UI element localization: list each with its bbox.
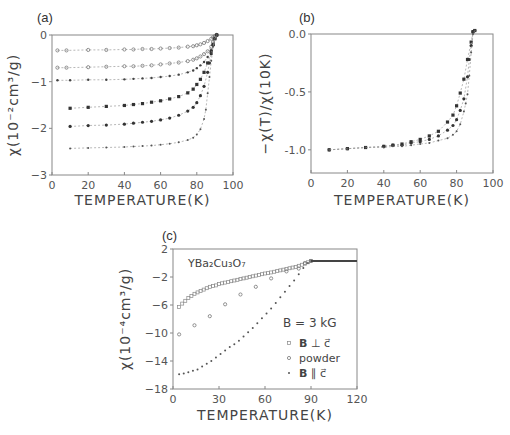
x-axis-title: TEMPERATURE(K) — [196, 407, 333, 423]
data-series — [69, 33, 219, 109]
data-point — [233, 343, 235, 345]
panel-c-chart: (c)03060901202−2−6−10−14−18TEMPERATURE(K… — [117, 228, 368, 423]
data-point — [87, 106, 90, 109]
x-tick-label: 90 — [304, 393, 318, 406]
data-point — [437, 130, 440, 133]
data-point — [467, 93, 469, 95]
data-point — [294, 265, 297, 268]
data-point — [302, 267, 304, 269]
data-point — [472, 33, 474, 35]
data-point — [177, 114, 180, 117]
series-line — [70, 35, 217, 148]
data-point — [186, 109, 189, 112]
y-tick-label: -1.0 — [285, 144, 306, 157]
legend-entry-label: B ⊥ c⃗ — [299, 337, 330, 350]
data-point — [192, 69, 194, 71]
data-point — [236, 278, 239, 281]
data-point — [159, 118, 162, 121]
data-point — [455, 104, 458, 107]
data-point — [242, 277, 245, 280]
data-point — [247, 331, 249, 333]
data-point — [446, 129, 449, 132]
series-line — [329, 31, 475, 150]
data-point — [289, 285, 291, 287]
data-point — [187, 371, 189, 373]
data-point — [267, 272, 270, 275]
series-line — [329, 31, 475, 150]
data-point — [184, 299, 187, 302]
x-tick-label: 80 — [450, 177, 464, 190]
x-tick-label: 20 — [340, 177, 354, 190]
data-point — [462, 97, 465, 100]
data-point — [203, 61, 205, 63]
data-point — [208, 285, 211, 288]
data-point — [123, 104, 126, 107]
data-point — [132, 78, 134, 80]
data-point — [446, 120, 449, 123]
y-tick-label: 2 — [161, 243, 168, 256]
x-tick-label: 60 — [258, 393, 272, 406]
data-point — [220, 353, 222, 355]
data-point — [210, 360, 212, 362]
data-point — [224, 303, 227, 306]
series-line — [57, 35, 216, 80]
data-point — [206, 363, 208, 365]
data-point — [151, 145, 153, 147]
y-axis-title: χ(10⁻⁴cm³/g) — [117, 268, 133, 370]
data-point — [178, 306, 181, 309]
data-point — [132, 103, 135, 106]
x-tick-label: 0 — [49, 179, 56, 192]
data-point — [187, 139, 189, 141]
data-point — [251, 275, 254, 278]
y-tick-label: −2 — [31, 122, 47, 135]
data-point — [459, 91, 462, 94]
data-point — [195, 101, 198, 104]
x-tick-label: 80 — [190, 179, 204, 192]
data-point — [239, 293, 242, 296]
data-point — [123, 146, 125, 148]
legend: B = 3 kGB ⊥ c⃗powderB ∥ c⃗ — [283, 316, 340, 380]
data-point — [459, 123, 461, 125]
data-point — [293, 280, 295, 282]
data-point — [401, 145, 403, 147]
data-point — [192, 137, 194, 139]
data-point — [383, 147, 385, 149]
data-point — [206, 39, 209, 42]
y-tick-label: 0 — [40, 29, 47, 42]
data-point — [150, 77, 152, 79]
data-point — [248, 276, 251, 279]
data-point — [462, 78, 465, 81]
data-point — [279, 269, 282, 272]
data-point — [437, 134, 440, 137]
data-point — [212, 46, 214, 48]
panel-label: (b) — [299, 10, 315, 25]
data-point — [178, 333, 181, 336]
series-line — [70, 35, 217, 127]
figure-canvas: (a)0204060801000−1−2−3TEMPERATURE(K)χ(10… — [0, 0, 510, 435]
data-point — [211, 285, 214, 288]
data-point — [276, 270, 279, 273]
data-point — [206, 56, 208, 58]
data-point — [193, 324, 196, 327]
panel-b-chart: (b)0204060801000.0-0.5-1.0TEMPERATURE(K)… — [257, 10, 504, 208]
data-point — [273, 270, 276, 273]
data-point — [428, 142, 430, 144]
data-point — [254, 285, 257, 288]
y-tick-label: −18 — [145, 383, 168, 396]
data-point — [419, 143, 421, 145]
y-tick-label: −14 — [145, 355, 168, 368]
data-point — [159, 76, 161, 78]
data-point — [192, 88, 195, 91]
data-point — [233, 279, 236, 282]
data-point — [284, 291, 286, 293]
panel-a-chart: (a)0204060801000−1−2−3TEMPERATURE(K)χ(10… — [5, 10, 244, 208]
data-point — [168, 116, 171, 119]
data-point — [270, 308, 272, 310]
data-point — [288, 267, 291, 270]
data-point — [202, 288, 205, 291]
data-point — [197, 368, 199, 370]
data-point — [186, 91, 189, 94]
data-point — [437, 140, 439, 142]
data-point — [463, 111, 465, 113]
panel-label: (c) — [162, 228, 177, 243]
